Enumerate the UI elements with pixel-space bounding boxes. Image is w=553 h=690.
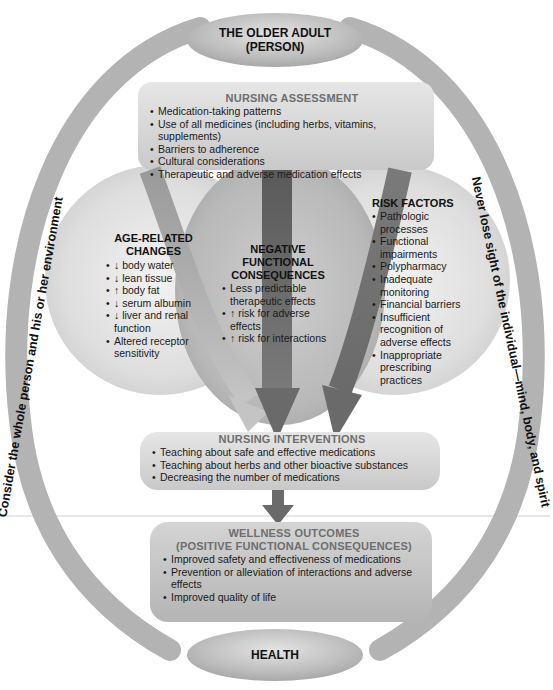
nfc-list: Less predictable therapeutic effects ↑ r… bbox=[222, 282, 334, 345]
wellness-title-2: (POSITIVE FUNCTIONAL CONSEQUENCES) bbox=[163, 540, 425, 553]
list-item: Teaching about safe and effective medica… bbox=[152, 446, 432, 459]
nursing-interventions-box: NURSING INTERVENTIONS Teaching about saf… bbox=[152, 433, 432, 484]
age-related-changes: AGE-RELATED CHANGES ↓ body water ↓ lean … bbox=[106, 232, 201, 360]
nfc-title-3: CONSEQUENCES bbox=[222, 269, 334, 282]
list-item: Decreasing the number of medications bbox=[152, 471, 432, 484]
older-adult-line1: THE OLDER ADULT bbox=[190, 26, 360, 40]
list-item: Polypharmacy bbox=[372, 260, 462, 273]
list-item: Prevention or alleviation of interaction… bbox=[163, 566, 425, 591]
list-item: Barriers to adherence bbox=[150, 143, 434, 156]
age-related-title-1: AGE-RELATED bbox=[106, 232, 201, 245]
nursing-interventions-list: Teaching about safe and effective medica… bbox=[152, 446, 432, 484]
risk-factors-title: RISK FACTORS bbox=[372, 197, 462, 210]
wellness-title-1: WELLNESS OUTCOMES bbox=[163, 527, 425, 540]
list-item: ↑ risk for adverse effects bbox=[222, 307, 334, 332]
list-item: Altered receptor sensitivity bbox=[106, 335, 201, 360]
list-item: Medication-taking patterns bbox=[150, 105, 434, 118]
risk-factors: RISK FACTORS Pathologic processes Functi… bbox=[372, 197, 462, 386]
nursing-assessment-list: Medication-taking patterns Use of all me… bbox=[150, 105, 434, 181]
nursing-assessment-title: NURSING ASSESSMENT bbox=[150, 92, 434, 105]
nfc-title-1: NEGATIVE bbox=[222, 243, 334, 256]
wellness-outcomes-list: Improved safety and effectiveness of med… bbox=[163, 553, 425, 603]
list-item: ↓ body water bbox=[106, 259, 201, 272]
negative-functional-consequences: NEGATIVE FUNCTIONAL CONSEQUENCES Less pr… bbox=[222, 243, 334, 345]
list-item: ↓ lean tissue bbox=[106, 272, 201, 285]
nursing-interventions-title: NURSING INTERVENTIONS bbox=[152, 433, 432, 446]
list-item: Inadequate monitoring bbox=[372, 273, 462, 298]
nfc-title-2: FUNCTIONAL bbox=[222, 256, 334, 269]
list-item: Therapeutic and adverse medication effec… bbox=[150, 168, 434, 181]
age-related-list: ↓ body water ↓ lean tissue ↑ body fat ↓ … bbox=[106, 259, 201, 360]
list-item: Improved quality of life bbox=[163, 591, 425, 604]
older-adult-line2: (PERSON) bbox=[190, 40, 360, 54]
list-item: Cultural considerations bbox=[150, 155, 434, 168]
list-item: Financial barriers bbox=[372, 298, 462, 311]
health-oval: HEALTH bbox=[190, 648, 360, 662]
risk-factors-list: Pathologic processes Functional impairme… bbox=[372, 210, 462, 386]
list-item: Inappropriate prescribing practices bbox=[372, 349, 462, 387]
list-item: ↓ serum albumin bbox=[106, 297, 201, 310]
list-item: ↓ liver and renal function bbox=[106, 309, 201, 334]
wellness-outcomes-box: WELLNESS OUTCOMES (POSITIVE FUNCTIONAL C… bbox=[163, 527, 425, 603]
list-item: Improved safety and effectiveness of med… bbox=[163, 553, 425, 566]
nursing-assessment-box: NURSING ASSESSMENT Medication-taking pat… bbox=[150, 92, 434, 181]
health-label: HEALTH bbox=[190, 648, 360, 662]
older-adult-oval: THE OLDER ADULT (PERSON) bbox=[190, 26, 360, 54]
list-item: Less predictable therapeutic effects bbox=[222, 282, 334, 307]
list-item: Insufficient recognition of adverse effe… bbox=[372, 311, 462, 349]
list-item: Functional impairments bbox=[372, 235, 462, 260]
list-item: ↑ body fat bbox=[106, 284, 201, 297]
list-item: Use of all medicines (including herbs, v… bbox=[150, 118, 434, 143]
list-item: ↑ risk for interactions bbox=[222, 332, 334, 345]
list-item: Pathologic processes bbox=[372, 210, 462, 235]
list-item: Teaching about herbs and other bioactive… bbox=[152, 459, 432, 472]
age-related-title-2: CHANGES bbox=[106, 245, 201, 258]
